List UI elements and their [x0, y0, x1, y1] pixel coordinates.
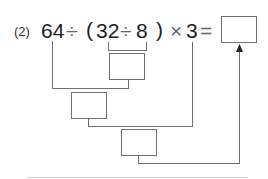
connector-line — [88, 126, 193, 127]
divide-sign: ÷ — [120, 20, 132, 41]
token-32: 32 — [96, 20, 119, 41]
bottom-divider — [27, 177, 247, 178]
bracket-line — [108, 50, 147, 51]
problem-label: (2) — [14, 24, 30, 39]
open-paren: ( — [86, 19, 93, 40]
step-3-box[interactable] — [121, 129, 157, 156]
token-8: 8 — [136, 20, 148, 41]
token-64: 64 — [41, 20, 64, 41]
token-3: 3 — [186, 20, 198, 41]
connector-line — [52, 41, 53, 89]
connector-line — [138, 163, 240, 164]
arrow-up-icon — [236, 44, 243, 52]
step-1-box[interactable] — [109, 53, 145, 80]
answer-box[interactable] — [221, 16, 257, 43]
connector-line — [52, 88, 129, 89]
divide-sign: ÷ — [66, 20, 78, 41]
close-paren: ) — [156, 19, 163, 40]
equals-sign: = — [200, 20, 212, 41]
multiply-sign: × — [170, 20, 182, 41]
step-2-box[interactable] — [71, 92, 107, 119]
arrow-line — [239, 50, 240, 164]
connector-line — [192, 42, 193, 127]
